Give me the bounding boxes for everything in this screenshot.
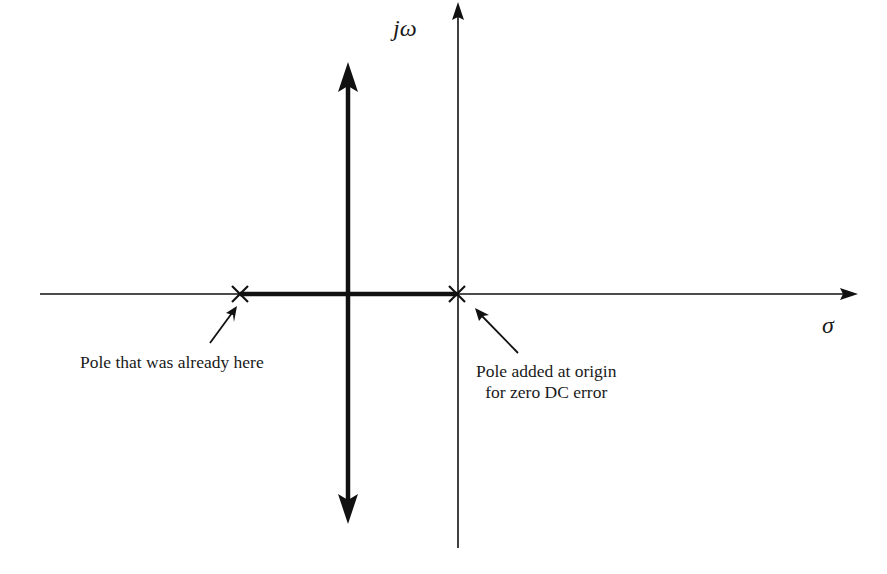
jw-axis (452, 2, 464, 548)
existing-pole-annotation-text: Pole that was already here (80, 352, 264, 372)
existing-pole-annotation: Pole that was already here (80, 352, 264, 373)
diagram-svg (0, 0, 887, 574)
annotation-arrow-origin-pole (475, 308, 518, 353)
annotation-arrow-existing-pole (210, 306, 237, 343)
origin-pole-annotation: Pole added at origin for zero DC error (476, 361, 616, 403)
jw-axis-label: jω (393, 15, 417, 42)
root-locus-diagram: jω σ Pole that was already here Pole add… (0, 0, 887, 574)
sigma-axis-label: σ (822, 312, 834, 339)
origin-pole-annotation-line1: Pole added at origin (476, 361, 616, 382)
origin-pole-annotation-line2: for zero DC error (476, 382, 616, 403)
